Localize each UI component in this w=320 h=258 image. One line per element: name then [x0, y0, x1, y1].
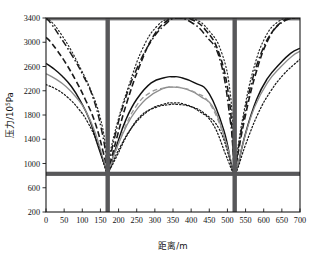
y-tick-label: 1800	[24, 111, 40, 120]
x-tick-label: 400	[185, 216, 197, 225]
y-tick-label: 2600	[24, 63, 40, 72]
y-axis-title-group: 压力/105Pa	[4, 92, 15, 138]
y-tick-label: 3000	[24, 38, 40, 47]
x-tick-label: 600	[258, 216, 270, 225]
x-tick-label: 150	[94, 216, 106, 225]
y-tick-label: 2200	[24, 87, 40, 96]
x-tick-label: 200	[112, 216, 124, 225]
x-tick-label: 650	[276, 216, 288, 225]
chart-figure: 2006001000140018002200260030003400 05010…	[0, 0, 320, 258]
x-tick-label: 50	[60, 216, 68, 225]
x-tick-label: 0	[44, 216, 48, 225]
y-tick-label: 1400	[24, 135, 40, 144]
chart-svg: 2006001000140018002200260030003400 05010…	[0, 0, 320, 258]
shaft-left-bar	[105, 18, 109, 212]
x-tick-label: 550	[239, 216, 251, 225]
y-tick-label: 1000	[24, 160, 40, 169]
shaft-right-bar	[232, 18, 236, 212]
x-tick-label: 700	[294, 216, 306, 225]
y-tick-label: 200	[28, 208, 40, 217]
x-axis-title: 距离/m	[158, 240, 187, 251]
y-axis-ticks: 2006001000140018002200260030003400	[24, 14, 46, 217]
y-axis-title-base: 压力/10	[4, 106, 15, 138]
y-tick-label: 600	[28, 184, 40, 193]
x-tick-label: 350	[167, 216, 179, 225]
x-tick-label: 500	[221, 216, 233, 225]
x-tick-label: 100	[76, 216, 88, 225]
x-tick-label: 250	[131, 216, 143, 225]
x-tick-label: 450	[203, 216, 215, 225]
roadway-band	[46, 172, 300, 176]
y-axis-title-unit: Pa	[5, 92, 15, 102]
y-tick-label: 3400	[24, 14, 40, 23]
y-axis-title: 压力/105Pa	[4, 92, 15, 138]
x-tick-label: 300	[149, 216, 161, 225]
